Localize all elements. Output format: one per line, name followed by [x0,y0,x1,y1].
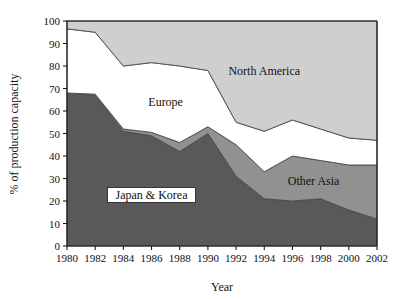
y-axis-title: % of production capacity [7,74,21,195]
y-tick-label: 30 [49,173,61,185]
y-tick-label: 0 [55,240,61,252]
y-tick-label: 10 [49,218,61,230]
x-tick-label: 2000 [338,252,361,264]
y-tick-label: 90 [49,38,61,50]
x-tick-label: 1998 [310,252,333,264]
x-tick-label: 1984 [112,252,135,264]
y-tick-label: 50 [49,128,61,140]
y-tick-label: 80 [49,60,61,72]
x-axis-title: Year [211,280,233,294]
y-tick-label: 20 [49,195,61,207]
annotation-label-north-america: North America [228,64,300,78]
x-tick-label: 1982 [84,252,106,264]
annotation-label-japan-korea: Japan & Korea [116,188,189,202]
x-tick-label: 2002 [366,252,388,264]
x-axis-ticks: 1980198219841986198819901992199419961998… [56,246,388,264]
annotation-label-europe: Europe [148,95,183,109]
y-tick-label: 40 [49,150,61,162]
chart-container: 0102030405060708090100 19801982198419861… [0,0,403,299]
y-axis-ticks: 0102030405060708090100 [44,15,68,252]
x-tick-label: 1990 [197,252,220,264]
series-bands [67,21,377,246]
x-tick-label: 1986 [141,252,164,264]
stacked-area-chart: 0102030405060708090100 19801982198419861… [0,0,403,299]
y-tick-label: 100 [44,15,61,27]
annotation-label-other-asia: Other Asia [288,174,340,188]
y-tick-label: 60 [49,105,61,117]
y-tick-label: 70 [49,83,61,95]
x-tick-label: 1996 [281,252,304,264]
x-tick-label: 1988 [169,252,192,264]
x-tick-label: 1980 [56,252,79,264]
x-tick-label: 1994 [253,252,276,264]
x-tick-label: 1992 [225,252,247,264]
